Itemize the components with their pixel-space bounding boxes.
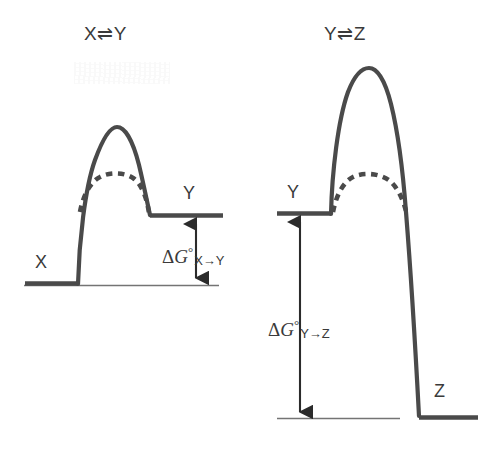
state-label-x: X	[35, 252, 47, 273]
state-label-y-right: Y	[287, 182, 299, 203]
panel-title-xy: X⇌Y	[84, 22, 127, 45]
solid-barrier-curve-yz	[331, 68, 419, 416]
diagram-canvas	[0, 0, 495, 456]
solid-barrier-curve-xy	[78, 127, 150, 284]
delta-g-subscript-yz: Y→Z	[300, 326, 330, 341]
g-symbol-yz: G	[280, 319, 294, 340]
state-label-y-left: Y	[183, 183, 195, 204]
delta-g-label-yz: ΔG°Y→Z	[268, 317, 330, 341]
panel-title-yz: Y⇌Z	[324, 22, 366, 45]
degree-symbol-yz: °	[294, 317, 299, 332]
panel-yz-graphics	[277, 68, 478, 419]
g-symbol-xy: G	[174, 246, 188, 267]
delta-g-label-xy: ΔG°X→Y	[162, 244, 225, 268]
delta-g-subscript-xy: X→Y	[194, 253, 224, 268]
dashed-barrier-curve-yz	[333, 174, 407, 215]
free-energy-diagram-figure: X⇌Y Y⇌Z X Y Y Z ΔG°X→Y ΔG°Y→Z	[0, 0, 495, 456]
state-label-z: Z	[434, 381, 445, 402]
delta-symbol-yz: Δ	[268, 319, 280, 340]
delta-symbol-xy: Δ	[162, 246, 174, 267]
degree-symbol-xy: °	[188, 244, 193, 259]
